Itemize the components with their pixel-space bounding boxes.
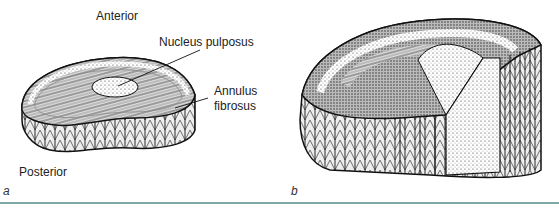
label-annulus-line1: Annulus — [214, 84, 257, 98]
bottom-rule — [0, 202, 559, 204]
label-nucleus-pulposus: Nucleus pulposus — [159, 35, 254, 49]
panel-letter-b: b — [291, 184, 298, 198]
label-annulus-line2: fibrosus — [214, 99, 256, 113]
label-posterior: Posterior — [19, 165, 67, 179]
disc-diagram — [0, 0, 559, 210]
panel-b-disc — [300, 19, 541, 177]
panel-a-disc — [22, 50, 208, 152]
panel-letter-a: a — [3, 184, 10, 198]
label-anterior: Anterior — [96, 9, 138, 23]
